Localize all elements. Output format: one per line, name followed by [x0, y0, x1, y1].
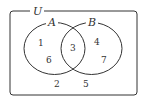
- universe-label: U: [33, 5, 43, 18]
- venn-diagram: U A B 1 6 3 4 7 2 5: [0, 0, 143, 100]
- region-a-only-value-2: 6: [46, 55, 52, 65]
- set-b-label: B: [87, 16, 96, 29]
- region-b-only-value-1: 4: [94, 37, 100, 47]
- region-b-only-value-2: 7: [101, 55, 107, 65]
- region-a-only-value-1: 1: [38, 38, 44, 48]
- region-intersection-value: 3: [70, 43, 76, 53]
- region-neither-value-2: 5: [83, 79, 89, 89]
- set-a-circle: [24, 23, 85, 75]
- set-a-label: A: [47, 16, 56, 29]
- region-neither-value-1: 2: [54, 79, 60, 89]
- universe-rectangle: [10, 11, 137, 95]
